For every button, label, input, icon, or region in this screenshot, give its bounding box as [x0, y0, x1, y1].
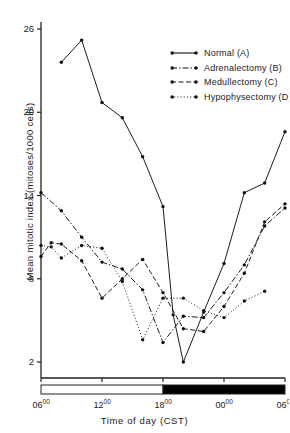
data-point: [182, 296, 185, 299]
data-point: [39, 191, 42, 194]
data-point: [100, 260, 103, 263]
data-point: [243, 299, 246, 302]
series-line-2: [41, 204, 285, 332]
x-tick-label: 1200: [94, 398, 111, 410]
data-point: [60, 256, 63, 259]
data-point: [80, 38, 83, 41]
x-tick-label: 0600: [33, 398, 50, 410]
data-point: [222, 291, 225, 294]
data-point: [283, 206, 286, 209]
legend-key-solid: [170, 47, 198, 59]
data-point: [39, 244, 42, 247]
data-point: [60, 242, 63, 245]
x-axis-label: Time of day (CST): [0, 415, 289, 426]
legend-item: Normal (A): [170, 46, 289, 61]
x-tick-label: 1800: [155, 398, 172, 410]
data-point: [182, 315, 185, 318]
data-point: [49, 245, 52, 248]
legend-key-dashdot: [170, 62, 198, 74]
data-point: [141, 288, 144, 291]
data-point: [161, 296, 164, 299]
data-point: [243, 263, 246, 266]
y-tick-label: 8: [8, 273, 34, 284]
legend-key-dashed: [170, 76, 198, 88]
data-point: [80, 235, 83, 238]
data-point: [141, 258, 144, 261]
x-tick-label: 0600: [277, 398, 290, 410]
data-point: [263, 290, 266, 293]
data-point: [222, 316, 225, 319]
data-point: [182, 327, 185, 330]
data-point: [121, 267, 124, 270]
data-point: [60, 209, 63, 212]
x-tick-label: 0000: [216, 398, 233, 410]
legend-key-dotted: [170, 91, 198, 103]
data-point: [121, 280, 124, 283]
data-point: [222, 305, 225, 308]
y-tick-label: 14: [8, 190, 34, 201]
data-point: [161, 205, 164, 208]
data-point: [243, 272, 246, 275]
data-point: [202, 309, 205, 312]
data-point: [80, 244, 83, 247]
data-point: [141, 338, 144, 341]
data-point: [283, 130, 286, 133]
data-point: [49, 241, 52, 244]
legend-item: Adrenalectomy (B): [170, 61, 289, 76]
data-point: [161, 291, 164, 294]
legend-item: Hypophysectomy (D): [170, 90, 289, 105]
y-tick-label: 2: [8, 356, 34, 367]
data-point: [161, 341, 164, 344]
data-point: [171, 313, 174, 316]
y-tick-label: 26: [8, 23, 34, 34]
data-point: [243, 191, 246, 194]
data-point: [202, 316, 205, 319]
legend-label: Normal (A): [204, 48, 250, 58]
data-point: [100, 296, 103, 299]
data-point: [222, 262, 225, 265]
legend-label: Hypophysectomy (D): [204, 92, 289, 102]
data-point: [263, 220, 266, 223]
legend-label: Adrenalectomy (B): [204, 63, 282, 73]
data-point: [202, 330, 205, 333]
photoperiod-bar: [41, 385, 285, 394]
data-point: [283, 202, 286, 205]
y-tick-label: 20: [8, 106, 34, 117]
data-point: [39, 255, 42, 258]
data-point: [100, 101, 103, 104]
chart-legend: Normal (A) Adrenalectomy (B) Medullectom…: [170, 46, 289, 104]
legend-item: Medullectomy (C): [170, 75, 289, 90]
mitotic-index-figure: Mean mitotic index (mitoses/1000 cells) …: [0, 0, 289, 433]
data-point: [80, 259, 83, 262]
series-line-3: [41, 245, 265, 339]
data-point: [141, 155, 144, 158]
data-point: [263, 181, 266, 184]
data-point: [182, 360, 185, 363]
data-point: [121, 116, 124, 119]
series-line-1: [41, 193, 285, 343]
legend-label: Medullectomy (C): [204, 77, 278, 87]
data-point: [100, 247, 103, 250]
data-point: [60, 61, 63, 64]
